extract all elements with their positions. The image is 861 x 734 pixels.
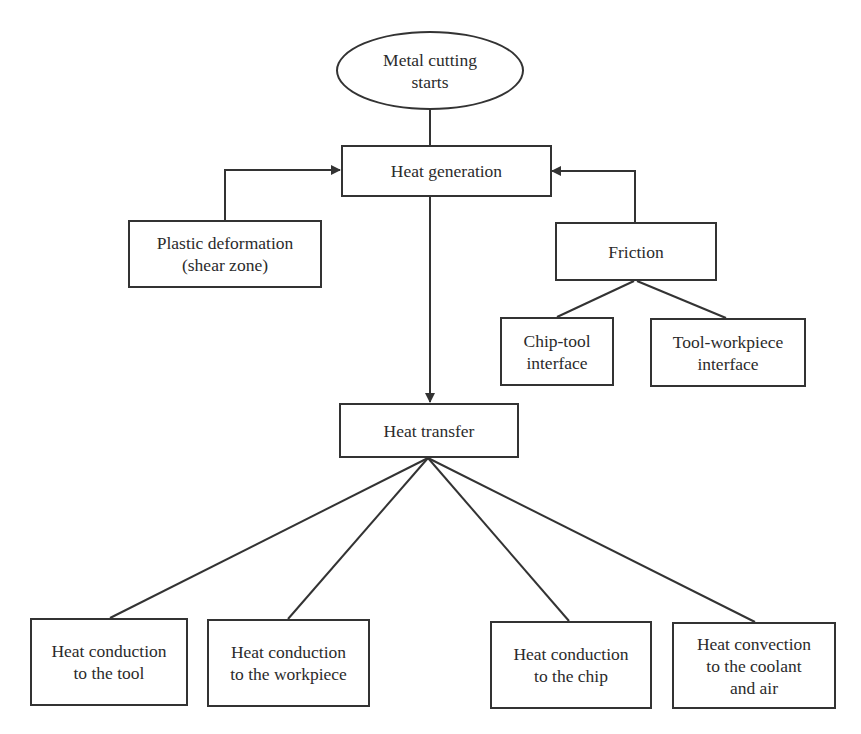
node-chip-tool-interface: Chip-tool interface [500, 317, 614, 386]
node-heat-generation: Heat generation [341, 145, 552, 197]
node-label: Friction [608, 241, 663, 263]
edge-heat-transfer-to-conduction-chip [428, 458, 569, 621]
edge-heat-transfer-to-convection [428, 458, 755, 622]
node-label: Heat generation [391, 160, 502, 182]
node-heat-conduction-tool: Heat conduction to the tool [30, 618, 188, 706]
node-label: Heat transfer [384, 420, 475, 442]
flowchart-canvas: Metal cutting starts Heat generation Pla… [0, 0, 861, 734]
node-metal-cutting-starts: Metal cutting starts [336, 31, 524, 110]
edge-heat-transfer-to-conduction-workpiece [288, 458, 428, 619]
node-plastic-deformation: Plastic deformation (shear zone) [128, 220, 322, 288]
node-heat-transfer: Heat transfer [339, 403, 519, 458]
node-tool-workpiece-interface: Tool-workpiece interface [650, 318, 806, 387]
node-label: Chip-tool interface [523, 330, 590, 374]
node-label: Plastic deformation (shear zone) [157, 232, 294, 276]
node-label: Metal cutting starts [383, 49, 477, 93]
edge-plastic-deformation-to-heat-generation [225, 170, 340, 220]
node-label: Heat conduction to the tool [51, 640, 166, 684]
node-heat-conduction-chip: Heat conduction to the chip [490, 621, 652, 709]
edge-heat-transfer-to-conduction-tool [110, 458, 428, 618]
edge-friction-to-heat-generation [552, 171, 635, 222]
edge-friction-to-chip-tool [557, 281, 634, 317]
node-label: Tool-workpiece interface [673, 331, 784, 375]
edge-friction-to-tool-workpiece [637, 281, 726, 318]
node-friction: Friction [555, 222, 717, 281]
node-label: Heat conduction to the chip [513, 643, 628, 687]
node-label: Heat convection to the coolant and air [697, 633, 811, 699]
node-heat-convection: Heat convection to the coolant and air [672, 622, 836, 709]
node-heat-conduction-workpiece: Heat conduction to the workpiece [207, 619, 370, 707]
node-label: Heat conduction to the workpiece [230, 641, 347, 685]
